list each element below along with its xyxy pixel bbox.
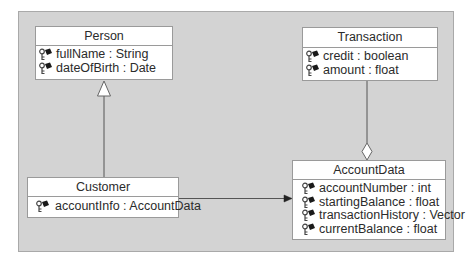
class-customer[interactable]: Customer accountInfo : AccountData <box>27 177 179 218</box>
private-attribute-icon <box>301 223 319 236</box>
attribute-item[interactable]: fullName : String <box>38 48 172 62</box>
attribute-item[interactable]: amount : float <box>305 64 437 78</box>
class-name: Transaction <box>303 28 437 48</box>
private-attribute-icon <box>305 64 323 77</box>
attribute-label: accountNumber : int <box>319 182 431 196</box>
attribute-list: credit : boolean amount : float <box>303 48 437 77</box>
private-attribute-icon <box>305 50 323 63</box>
private-attribute-icon <box>301 196 319 209</box>
attribute-label: credit : boolean <box>323 50 408 64</box>
attribute-item[interactable]: dateOfBirth : Date <box>38 62 172 76</box>
class-name: AccountData <box>293 161 445 180</box>
attribute-label: transactionHistory : Vector <box>319 209 465 223</box>
attribute-list: fullName : String dateOfBirth : Date <box>36 46 172 75</box>
attribute-list: accountNumber : int startingBalance : fl… <box>293 180 445 236</box>
private-attribute-icon <box>301 182 319 195</box>
attribute-label: fullName : String <box>56 48 148 62</box>
attribute-label: currentBalance : float <box>319 223 437 237</box>
attribute-label: startingBalance : float <box>319 196 439 210</box>
attribute-label: dateOfBirth : Date <box>56 62 156 76</box>
class-transaction[interactable]: Transaction credit : boolean amount : fl… <box>302 27 438 81</box>
class-accountdata[interactable]: AccountData accountNumber : int starting… <box>292 160 446 240</box>
attribute-item[interactable]: credit : boolean <box>305 50 437 64</box>
class-person[interactable]: Person fullName : String dateOfBirth : D… <box>35 26 173 80</box>
attribute-item[interactable]: transactionHistory : Vector <box>301 209 445 223</box>
attribute-list: accountInfo : AccountData <box>28 197 178 214</box>
private-attribute-icon <box>301 209 319 222</box>
private-attribute-icon <box>38 48 56 61</box>
attribute-label: accountInfo : AccountData <box>55 200 201 214</box>
attribute-item[interactable]: currentBalance : float <box>301 223 445 237</box>
attribute-label: amount : float <box>323 64 399 78</box>
class-name: Person <box>36 27 172 46</box>
attribute-item[interactable]: accountNumber : int <box>301 182 445 196</box>
class-name: Customer <box>28 178 178 197</box>
private-attribute-icon <box>38 62 56 75</box>
private-attribute-icon <box>35 200 55 213</box>
attribute-item[interactable]: startingBalance : float <box>301 196 445 210</box>
attribute-item[interactable]: accountInfo : AccountData <box>35 200 178 214</box>
